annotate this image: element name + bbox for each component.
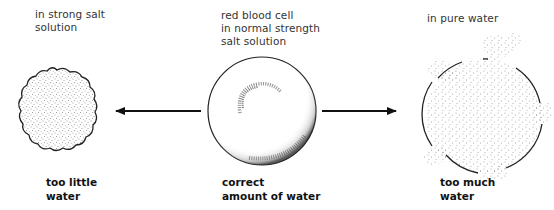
result-line: water [440, 189, 495, 203]
result-line: correct [222, 175, 320, 189]
result-caption-too-much: too much water [440, 175, 495, 203]
result-caption-too-little: too little water [46, 175, 97, 203]
normal-cell [208, 57, 316, 165]
condition-line: red blood cell [221, 9, 320, 22]
result-line: too little [46, 175, 97, 189]
condition-label-normal-salt: red blood cell in normal strength salt s… [221, 9, 320, 48]
condition-line: solution [35, 21, 105, 34]
result-caption-correct: correct amount of water [222, 175, 320, 203]
condition-line: in pure water [427, 12, 498, 25]
condition-line: in normal strength [221, 22, 320, 35]
condition-line: salt solution [221, 35, 320, 48]
result-line: water [46, 189, 97, 203]
result-line: too much [440, 175, 495, 189]
condition-label-pure-water: in pure water [427, 12, 498, 25]
shrunken-cell [19, 68, 97, 151]
condition-label-strong-salt: in strong salt solution [35, 8, 105, 34]
result-line: amount of water [222, 189, 320, 203]
condition-line: in strong salt [35, 8, 105, 21]
swollen-cell [422, 33, 553, 184]
